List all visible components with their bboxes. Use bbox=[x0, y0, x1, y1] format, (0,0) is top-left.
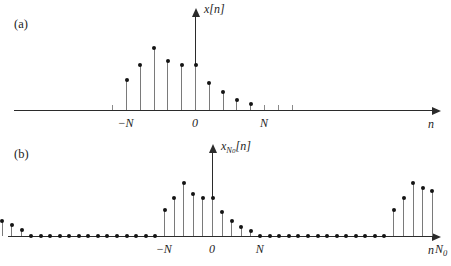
stem-line bbox=[222, 212, 223, 236]
zero-sample-dot bbox=[268, 234, 272, 238]
tick-label-1: 0 bbox=[192, 116, 198, 131]
stem-dot bbox=[166, 59, 170, 63]
zero-sample-dot bbox=[58, 234, 62, 238]
stem-line bbox=[140, 65, 141, 110]
zero-sample-dot bbox=[258, 234, 262, 238]
axis-tick bbox=[278, 105, 279, 110]
zero-sample-dot bbox=[29, 234, 33, 238]
stem-dot bbox=[10, 223, 14, 227]
stem-line bbox=[212, 198, 213, 236]
stem-dot bbox=[180, 63, 184, 67]
stem-line bbox=[181, 65, 182, 110]
stem-dot bbox=[152, 46, 156, 50]
tick-label-0: −N bbox=[119, 116, 134, 131]
stem-dot bbox=[194, 63, 198, 67]
stem-dot bbox=[411, 181, 415, 185]
stem-line bbox=[195, 65, 196, 110]
stem-line bbox=[223, 92, 224, 110]
zero-sample-dot bbox=[153, 234, 157, 238]
stem-dot bbox=[421, 186, 425, 190]
stem-dot bbox=[211, 196, 215, 200]
stem-dot bbox=[249, 229, 253, 233]
zero-sample-dot bbox=[363, 234, 367, 238]
zero-sample-dot bbox=[344, 234, 348, 238]
stem-line bbox=[154, 48, 155, 110]
zero-sample-dot bbox=[48, 234, 52, 238]
panel-b-x-axis-label: n bbox=[428, 243, 434, 258]
stem-dot bbox=[201, 196, 205, 200]
figure-root: (a) x[n] n −N0N (b) xN0[n] n −N0−N0NN0 bbox=[0, 0, 451, 266]
stem-line bbox=[393, 210, 394, 236]
zero-sample-dot bbox=[316, 234, 320, 238]
axis-tick bbox=[112, 105, 113, 110]
stem-line bbox=[2, 221, 3, 237]
panel-b-x-axis bbox=[8, 236, 432, 237]
panel-a: (a) x[n] n −N0N bbox=[0, 0, 451, 133]
zero-sample-dot bbox=[77, 234, 81, 238]
stem-line bbox=[167, 61, 168, 110]
stem-dot bbox=[230, 219, 234, 223]
zero-sample-dot bbox=[277, 234, 281, 238]
stem-dot bbox=[392, 208, 396, 212]
zero-sample-dot bbox=[125, 234, 129, 238]
stem-dot bbox=[207, 81, 211, 85]
stem-dot bbox=[138, 63, 142, 67]
panel-a-y-axis-arrow-icon bbox=[192, 8, 200, 17]
zero-sample-dot bbox=[115, 234, 119, 238]
axis-tick bbox=[264, 105, 265, 110]
zero-sample-dot bbox=[325, 234, 329, 238]
stem-line bbox=[193, 194, 194, 236]
stem-line bbox=[209, 83, 210, 110]
panel-a-x-axis-arrow-icon bbox=[432, 107, 441, 115]
panel-b-x-axis-arrow-icon bbox=[432, 233, 441, 241]
stem-dot bbox=[125, 78, 129, 82]
stem-line bbox=[231, 221, 232, 237]
zero-sample-dot bbox=[39, 234, 43, 238]
zero-sample-dot bbox=[373, 234, 377, 238]
zero-sample-dot bbox=[296, 234, 300, 238]
stem-line bbox=[164, 210, 165, 236]
stem-line bbox=[432, 191, 433, 236]
stem-line bbox=[126, 80, 127, 110]
stem-dot bbox=[172, 196, 176, 200]
zero-sample-dot bbox=[134, 234, 138, 238]
panel-a-x-axis bbox=[14, 110, 432, 111]
stem-dot bbox=[221, 90, 225, 94]
stem-dot bbox=[430, 189, 434, 193]
tick-label-4: N0 bbox=[435, 242, 447, 258]
tick-label-2: N bbox=[260, 116, 268, 131]
stem-dot bbox=[20, 228, 24, 232]
tick-label-1: −N bbox=[157, 242, 172, 257]
stem-dot bbox=[239, 225, 243, 229]
stem-dot bbox=[402, 196, 406, 200]
tick-label-3: N bbox=[256, 242, 264, 257]
panel-b-y-axis-arrow-icon bbox=[209, 144, 217, 153]
stem-dot bbox=[249, 102, 253, 106]
stem-line bbox=[413, 183, 414, 236]
panel-a-x-axis-label: n bbox=[428, 117, 434, 132]
panel-b: (b) xN0[n] n −N0−N0NN0 bbox=[0, 133, 451, 266]
tick-label-2: 0 bbox=[209, 242, 215, 257]
stem-dot bbox=[0, 219, 4, 223]
axis-tick bbox=[292, 105, 293, 110]
zero-sample-dot bbox=[86, 234, 90, 238]
stem-dot bbox=[182, 181, 186, 185]
stem-line bbox=[183, 183, 184, 236]
stem-dot bbox=[191, 192, 195, 196]
zero-sample-dot bbox=[335, 234, 339, 238]
zero-sample-dot bbox=[67, 234, 71, 238]
panel-a-label: (a) bbox=[14, 17, 28, 32]
stem-dot bbox=[220, 210, 224, 214]
panel-b-y-axis-label: xN0[n] bbox=[221, 139, 251, 155]
zero-sample-dot bbox=[96, 234, 100, 238]
zero-sample-dot bbox=[105, 234, 109, 238]
stem-dot bbox=[163, 208, 167, 212]
panel-b-label: (b) bbox=[14, 147, 29, 162]
zero-sample-dot bbox=[287, 234, 291, 238]
panel-a-y-axis-label: x[n] bbox=[204, 2, 225, 17]
stem-dot bbox=[235, 98, 239, 102]
zero-sample-dot bbox=[354, 234, 358, 238]
stem-line bbox=[403, 198, 404, 236]
stem-line bbox=[174, 198, 175, 236]
stem-line bbox=[202, 198, 203, 236]
